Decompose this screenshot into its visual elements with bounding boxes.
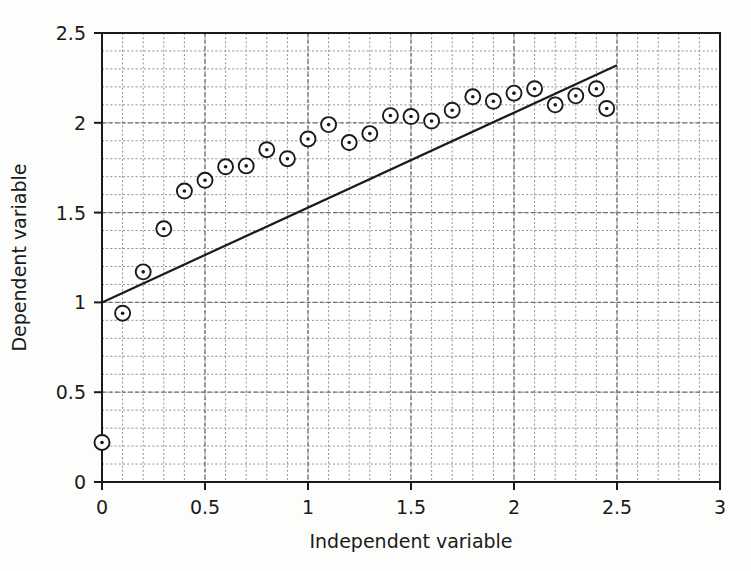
data-point-center-dot (492, 99, 496, 103)
scatter-plot: 00.511.522.5300.511.522.5Independent var… (0, 0, 751, 571)
x-tick-label: 2 (508, 496, 520, 518)
data-point-center-dot (224, 165, 228, 169)
y-axis-title: Dependent variable (8, 163, 30, 351)
data-point-center-dot (306, 137, 310, 141)
data-point-center-dot (183, 189, 187, 193)
data-point-center-dot (430, 119, 434, 123)
data-point-center-dot (409, 115, 413, 119)
data-point-center-dot (121, 311, 125, 315)
x-tick-label: 1.5 (396, 496, 426, 518)
x-tick-label: 3 (714, 496, 726, 518)
data-point-center-dot (203, 178, 207, 182)
x-axis-title: Independent variable (309, 530, 512, 552)
data-point-center-dot (389, 114, 393, 118)
data-point-center-dot (574, 94, 578, 98)
data-point-center-dot (265, 148, 269, 152)
data-point-center-dot (533, 87, 537, 91)
x-tick-label: 0.5 (190, 496, 220, 518)
y-tick-label: 0 (74, 471, 86, 493)
data-point-center-dot (327, 123, 331, 127)
data-point-center-dot (141, 270, 145, 274)
y-tick-label: 2.5 (56, 22, 86, 44)
data-point-center-dot (368, 132, 372, 136)
y-tick-label: 2 (74, 112, 86, 134)
data-point-center-dot (347, 141, 351, 145)
x-tick-label: 0 (96, 496, 108, 518)
x-tick-label: 2.5 (602, 496, 632, 518)
data-point-center-dot (162, 227, 166, 231)
x-tick-label: 1 (302, 496, 314, 518)
data-point-center-dot (244, 164, 248, 168)
data-point-center-dot (100, 441, 104, 445)
chart-figure: 00.511.522.5300.511.522.5Independent var… (0, 0, 751, 571)
data-point-center-dot (605, 107, 609, 111)
data-point-center-dot (512, 91, 516, 95)
data-point-center-dot (553, 103, 557, 107)
data-point-center-dot (286, 157, 290, 161)
data-point-center-dot (450, 108, 454, 112)
y-tick-label: 1.5 (56, 202, 86, 224)
y-tick-label: 1 (74, 291, 86, 313)
y-tick-label: 0.5 (56, 381, 86, 403)
data-point-center-dot (595, 87, 599, 91)
data-point-center-dot (471, 95, 475, 99)
